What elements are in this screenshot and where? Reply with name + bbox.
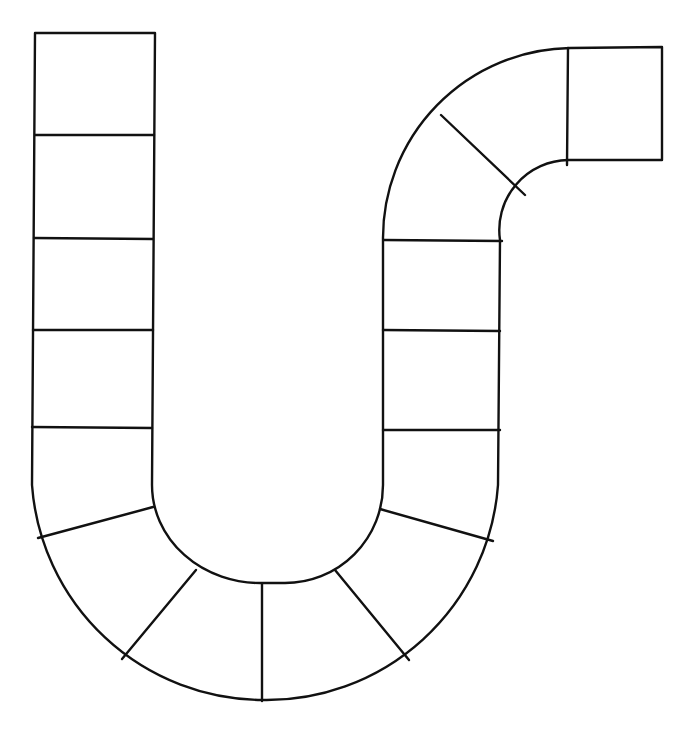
space-divider bbox=[384, 240, 502, 241]
space-divider bbox=[380, 509, 493, 541]
space-divider bbox=[335, 570, 409, 660]
space-divider bbox=[383, 330, 500, 331]
space-divider bbox=[441, 115, 525, 195]
space-divider bbox=[34, 238, 153, 239]
space-divider bbox=[32, 427, 152, 428]
game-board bbox=[0, 0, 697, 734]
space-divider bbox=[567, 48, 568, 165]
space-divider bbox=[38, 507, 153, 538]
space-divider bbox=[122, 570, 196, 659]
